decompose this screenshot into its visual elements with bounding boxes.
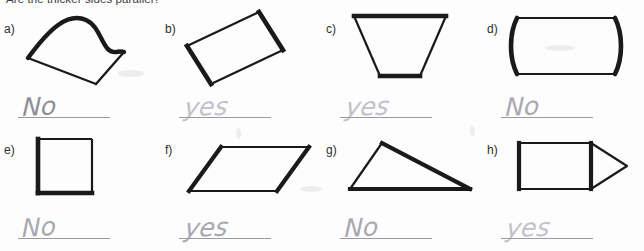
answer-rule-g (340, 238, 432, 239)
answer-slot-h[interactable]: yes (497, 205, 637, 247)
problem-panel-d: d) No (483, 8, 644, 128)
answer-slot-b[interactable]: yes (175, 84, 315, 126)
answer-slot-g[interactable]: No (336, 205, 476, 247)
problem-label-e: e) (4, 143, 15, 157)
shape-curved-barrel (503, 10, 643, 88)
problem-label-g: g) (326, 143, 337, 157)
answer-rule-f (179, 238, 271, 239)
worksheet-prompt: Are the thicker sides parallel? (6, 0, 160, 5)
shape-parallelogram (181, 131, 321, 209)
shape-square (20, 131, 160, 209)
answer-handwriting-f: yes (183, 214, 230, 241)
answer-rule-c (340, 117, 432, 118)
problem-panel-e: e) No (0, 129, 161, 249)
problem-panel-c: c) yes (322, 8, 483, 128)
answer-handwriting-g: No (344, 214, 379, 241)
problem-grid: a) No b) (0, 8, 644, 251)
answer-slot-e[interactable]: No (14, 205, 154, 247)
answer-rule-a (18, 117, 110, 118)
problem-label-h: h) (487, 143, 498, 157)
shape-tilted-rectangle (181, 10, 321, 88)
answer-handwriting-c: yes (344, 93, 391, 120)
answer-slot-a[interactable]: No (14, 84, 154, 126)
answer-handwriting-d: No (505, 93, 540, 120)
problem-label-f: f) (165, 143, 172, 157)
problem-label-d: d) (487, 22, 498, 36)
answer-rule-d (501, 117, 593, 118)
answer-slot-d[interactable]: No (497, 84, 637, 126)
shape-arrow-pentagon (503, 131, 643, 209)
problem-label-b: b) (165, 22, 176, 36)
shape-trapezoid (342, 10, 482, 88)
problem-panel-a: a) No (0, 8, 161, 128)
answer-slot-c[interactable]: yes (336, 84, 476, 126)
answer-handwriting-e: No (22, 214, 56, 241)
shape-right-triangle (342, 131, 482, 209)
problem-label-a: a) (4, 22, 15, 36)
shape-closed-curve-blob (20, 10, 160, 88)
problem-panel-g: g) No (322, 129, 483, 249)
problem-panel-f: f) yes (161, 129, 322, 249)
problem-label-c: c) (326, 22, 336, 36)
problem-panel-b: b) yes (161, 8, 322, 128)
answer-handwriting-a: No (22, 93, 57, 120)
answer-rule-h (501, 238, 593, 239)
answer-rule-b (179, 117, 271, 118)
answer-rule-e (18, 238, 110, 239)
problem-panel-h: h) yes (483, 129, 644, 249)
answer-slot-f[interactable]: yes (175, 205, 315, 247)
